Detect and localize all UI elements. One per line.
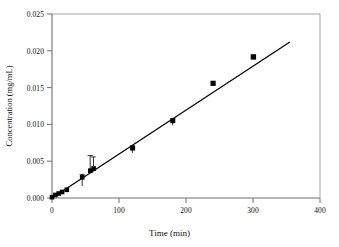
data-point [60, 190, 65, 195]
y-axis-title-container: Concentration (mg/mL) [2, 0, 16, 212]
x-axis-title: Time (min) [0, 228, 339, 238]
error-bars [80, 119, 175, 186]
x-tick-label-2: 200 [180, 206, 192, 215]
x-tick-label-3: 300 [247, 206, 259, 215]
data-point [91, 166, 96, 171]
x-tick-label-4: 400 [314, 206, 326, 215]
chart-figure: 0.000 0.005 0.010 0.015 0.020 0.025 0 10… [0, 0, 339, 247]
data-point [80, 175, 85, 180]
data-point-series [50, 54, 256, 199]
data-point [251, 54, 256, 59]
x-tick-label-1: 100 [113, 206, 125, 215]
data-point [130, 146, 135, 151]
x-tick-marks [52, 198, 320, 203]
data-point [65, 188, 70, 193]
y-tick-marks [47, 14, 52, 198]
data-point [170, 118, 175, 123]
x-tick-label-0: 0 [50, 206, 54, 215]
y-axis-title: Concentration (mg/mL) [4, 66, 14, 147]
data-point [211, 81, 216, 86]
